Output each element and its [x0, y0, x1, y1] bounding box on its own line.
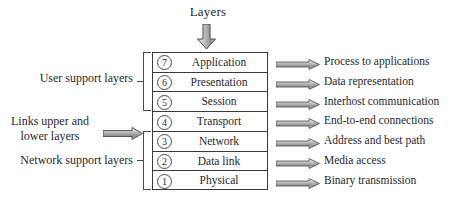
- function-label: Process to applications: [324, 54, 429, 68]
- function-label: Binary transmission: [324, 173, 416, 187]
- layer-number-badge: 1: [157, 174, 172, 189]
- layer-name: Session: [173, 94, 265, 109]
- group-label-links-line1: Links upper and: [0, 114, 100, 129]
- layer-name: Physical: [173, 173, 265, 188]
- group-label-network-support: Network support layers: [0, 153, 133, 168]
- layer-row[interactable]: 6 Presentation: [153, 73, 267, 93]
- function-label: Data representation: [324, 74, 414, 88]
- layer-row[interactable]: 3 Network: [153, 132, 267, 152]
- function-label: Interhost communication: [324, 94, 439, 108]
- bracket-tick-user-support: [137, 81, 144, 82]
- function-right-block-arrow-icon: [276, 76, 320, 87]
- bracket-tick-network-support: [137, 160, 144, 161]
- function-label: Address and best path: [324, 133, 425, 147]
- down-block-arrow-icon: [196, 24, 218, 50]
- layer-name: Network: [173, 134, 265, 149]
- layer-name: Presentation: [173, 75, 265, 90]
- layer-number-badge: 3: [157, 134, 172, 149]
- function-right-block-arrow-icon: [276, 56, 320, 67]
- function-right-block-arrow-icon: [276, 175, 320, 186]
- function-right-block-arrow-icon: [276, 135, 320, 146]
- layer-name: Transport: [173, 114, 265, 129]
- function-right-block-arrow-icon: [276, 155, 320, 166]
- layer-name: Data link: [173, 154, 265, 169]
- layer-row[interactable]: 1 Physical: [153, 171, 267, 191]
- links-right-block-arrow-icon: [103, 126, 143, 139]
- layer-row[interactable]: 5 Session: [153, 92, 267, 112]
- bracket-user-support: [143, 52, 151, 111]
- layer-number-badge: 5: [157, 95, 172, 110]
- function-right-block-arrow-icon: [276, 115, 320, 126]
- layer-number-badge: 7: [157, 55, 172, 70]
- function-right-block-arrow-icon: [276, 96, 320, 107]
- layer-row[interactable]: 7 Application: [153, 53, 267, 73]
- layer-row[interactable]: 2 Data link: [153, 152, 267, 172]
- layer-stack: 7 Application 6 Presentation 5 Session 4…: [152, 52, 268, 190]
- layer-name: Application: [173, 55, 265, 70]
- layer-number-badge: 2: [157, 154, 172, 169]
- bracket-network-support: [143, 131, 151, 190]
- group-label-links: Links upper and lower layers: [0, 114, 100, 144]
- group-label-links-line2: lower layers: [0, 129, 100, 144]
- function-label: Media access: [324, 153, 386, 167]
- layer-number-badge: 4: [157, 115, 172, 130]
- group-label-user-support: User support layers: [0, 71, 133, 86]
- osi-layer-diagram: Layers User support layers Links upper a…: [0, 0, 452, 204]
- layer-number-badge: 6: [157, 75, 172, 90]
- function-label: End-to-end connections: [324, 113, 434, 127]
- layers-caption: Layers: [148, 4, 268, 20]
- layer-row[interactable]: 4 Transport: [153, 112, 267, 132]
